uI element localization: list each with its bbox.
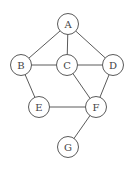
graph-diagram: ABCDEFG (0, 0, 131, 169)
node-f: F (86, 97, 107, 118)
node-label: G (64, 142, 72, 153)
node-c: C (57, 55, 78, 76)
node-b: B (11, 55, 32, 76)
node-label: B (17, 60, 24, 71)
node-e: E (29, 97, 50, 118)
node-label: A (63, 19, 72, 30)
node-label: E (35, 102, 42, 113)
node-label: C (63, 60, 71, 71)
nodes-group: ABCDEFG (11, 14, 124, 158)
node-label: F (93, 102, 100, 113)
node-a: A (58, 14, 79, 35)
node-label: D (109, 60, 117, 71)
node-g: G (58, 137, 79, 158)
edges-group (21, 24, 113, 147)
node-d: D (103, 55, 124, 76)
